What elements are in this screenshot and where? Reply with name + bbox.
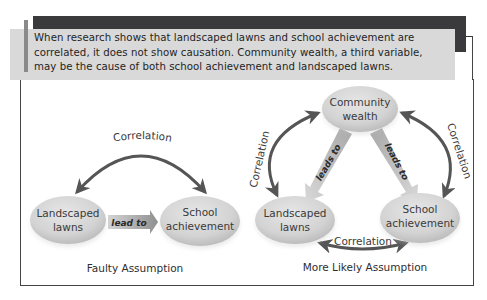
likely-node-left-line1: Landscaped [263,207,326,219]
likely-caption: More Likely Assumption [303,261,428,273]
left-correlation-label: Correlation [247,130,272,189]
likely-node-top-line2: wealth [342,110,377,122]
faulty-correlation-label: Correlation [112,129,173,144]
likely-assumption-diagram: leads to leads to Correlation Correlatio… [247,86,475,273]
causation-diagram: Correlation Landscaped lawns School achi… [0,0,487,300]
likely-node-top-line1: Community [330,96,391,108]
faulty-correlation-arrow [77,156,205,192]
likely-node-community-wealth [322,86,398,132]
bottom-correlation-label: Correlation [334,235,392,247]
faulty-node-landscaped-lawns [30,196,106,244]
faulty-node-right-line2: achievement [166,220,234,232]
faulty-assumption-diagram: Correlation Landscaped lawns School achi… [30,129,240,274]
left-correlation-arrow [269,113,318,195]
likely-node-right-line1: School [403,203,438,215]
lead-to-label: lead to [111,218,146,228]
faulty-node-right-line1: School [183,206,218,218]
likely-node-right-line2: achievement [386,217,454,229]
faulty-node-left-line2: lawns [53,221,83,233]
likely-node-left-line2: lawns [280,221,310,233]
likely-node-landscaped-lawns [255,196,335,244]
faulty-caption: Faulty Assumption [87,262,184,274]
leads-to-label-left: leads to [314,142,343,182]
faulty-node-left-line1: Landscaped [36,207,99,219]
